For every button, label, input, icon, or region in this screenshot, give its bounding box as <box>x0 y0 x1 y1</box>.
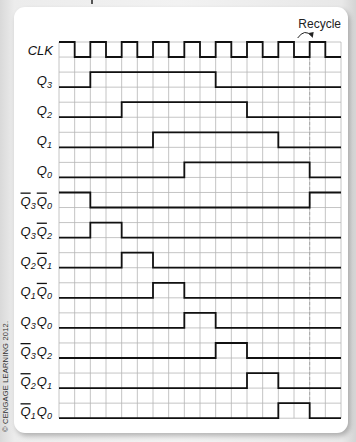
copyright-notice: © CENGAGE LEARNING 2012. <box>1 321 10 432</box>
signal-label: Q3 Q0 <box>21 194 53 211</box>
signal-label: Q3 Q2 <box>21 344 53 361</box>
signal-label: Q0 <box>37 163 53 180</box>
signal-label: Q3 <box>37 73 53 90</box>
grid <box>59 42 341 418</box>
signal-label: Q3 Q0 <box>21 314 53 331</box>
signal-label: Q3 Q2 <box>21 224 53 241</box>
timing-diagram: RecycleCLKQ3 Q2 Q1 Q0 Q3 Q0 Q3 Q2 Q2 Q1 … <box>0 0 356 442</box>
recycle-label: Recycle <box>298 17 341 31</box>
signal-label: Q1 <box>37 133 53 150</box>
signal-nQ3Q2: Q3 Q2 <box>21 343 341 361</box>
signal-Q3nQ2: Q3 Q2 <box>21 223 341 241</box>
signal-label: CLK <box>28 43 55 58</box>
signal-nQ2Q1: Q2 Q1 <box>21 373 341 391</box>
signal-label: Q2 Q1 <box>21 254 53 271</box>
signal-CLK: CLK <box>28 42 341 58</box>
arrowhead-icon <box>309 32 314 38</box>
signal-label: Q1 Q0 <box>21 404 53 421</box>
waveform <box>59 42 341 57</box>
signal-label: Q2 Q1 <box>21 374 53 391</box>
signal-label: Q1 Q0 <box>21 284 53 301</box>
signal-Q2nQ1: Q2 Q1 <box>21 253 341 271</box>
signal-Q3Q0: Q3 Q0 <box>21 313 341 331</box>
signal-label: Q2 <box>37 103 53 120</box>
